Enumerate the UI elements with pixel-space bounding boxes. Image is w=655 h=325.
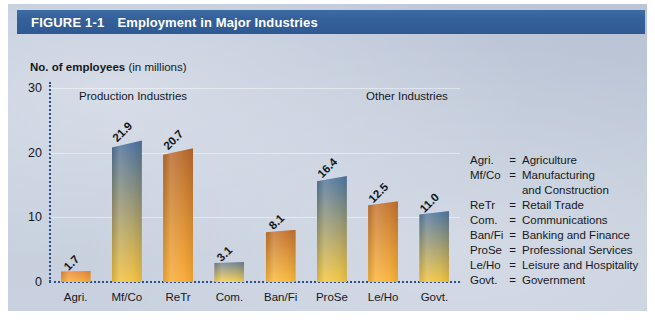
- figure-title-bar: FIGURE 1-1 Employment in Major Industrie…: [17, 10, 645, 34]
- legend-row: Ban/Fi=Banking and Finance: [470, 229, 638, 244]
- legend-spacer: [509, 184, 522, 199]
- bar[interactable]: 11.0Govt.: [419, 211, 449, 282]
- legend-full-name-continued: and Construction: [522, 184, 638, 199]
- bar-value-label: 8.1: [266, 211, 286, 231]
- y-axis-tick-label: 20: [28, 146, 42, 160]
- bar-value-label: 21.9: [110, 120, 134, 144]
- legend-full-name: Retail Trade: [522, 199, 638, 214]
- y-axis-label-strong: No. of employees: [30, 61, 125, 73]
- bar[interactable]: 12.5Le/Ho: [368, 201, 398, 282]
- legend-full-name: Professional Services: [522, 244, 638, 259]
- legend-full-name: Communications: [522, 214, 638, 229]
- bar-highlight: [214, 262, 244, 282]
- bar-value-label: 3.1: [215, 244, 235, 264]
- legend-row: Mf/Co=Manufacturing: [470, 169, 638, 184]
- legend-equals-sign: =: [509, 214, 522, 229]
- legend-row: Govt.=Government: [470, 274, 638, 289]
- x-axis-category-label: Com.: [206, 291, 252, 303]
- bar-value-label: 1.7: [61, 253, 81, 273]
- legend-row: Le/Ho=Leisure and Hospitality: [470, 259, 638, 274]
- legend-full-name: Government: [522, 274, 638, 289]
- bar-highlight: [61, 271, 91, 282]
- legend-row-continuation: and Construction: [470, 184, 638, 199]
- legend-equals-sign: =: [509, 244, 522, 259]
- chart-plot-area: 0102030 1.7Agri.21.9Mf/Co20.7ReTr3.1Com.…: [50, 88, 460, 282]
- legend-full-name: Agriculture: [522, 154, 638, 169]
- y-axis-tick-label: 0: [35, 275, 42, 289]
- bar-value-label: 20.7: [161, 128, 185, 152]
- legend-abbreviation: ReTr: [470, 199, 509, 214]
- legend-equals-sign: =: [509, 154, 522, 169]
- bar[interactable]: 3.1Com.: [214, 262, 244, 282]
- legend-abbreviation: Com.: [470, 214, 509, 229]
- legend-table: Agri.=AgricultureMf/Co=Manufacturingand …: [470, 154, 638, 289]
- bar[interactable]: 16.4ProSe: [317, 176, 347, 282]
- bar-highlight: [368, 201, 398, 282]
- y-axis-line: [49, 82, 51, 282]
- figure-panel: FIGURE 1-1 Employment in Major Industrie…: [8, 4, 647, 311]
- legend-equals-sign: =: [509, 229, 522, 244]
- legend-abbreviation: Govt.: [470, 274, 509, 289]
- y-axis-label-rest: (in millions): [125, 61, 186, 73]
- legend-abbreviation: Le/Ho: [470, 259, 509, 274]
- legend-full-name: Leisure and Hospitality: [522, 259, 638, 274]
- bar-highlight: [163, 148, 193, 282]
- figure-title: Employment in Major Industries: [118, 15, 318, 30]
- legend-full-name: Manufacturing: [522, 169, 638, 184]
- legend-abbreviation: Ban/Fi: [470, 229, 509, 244]
- x-axis-line: [49, 281, 460, 283]
- x-axis-category-label: ReTr: [155, 291, 201, 303]
- bar[interactable]: 8.1Ban/Fi: [266, 230, 296, 282]
- x-axis-category-label: Agri.: [53, 291, 99, 303]
- y-axis-tick-label: 10: [28, 210, 42, 224]
- legend-full-name: Banking and Finance: [522, 229, 638, 244]
- x-axis-category-label: Mf/Co: [104, 291, 150, 303]
- bar-value-label: 11.0: [418, 191, 442, 215]
- x-axis-category-label: Govt.: [411, 291, 457, 303]
- legend-equals-sign: =: [509, 169, 522, 184]
- y-axis-label: No. of employees (in millions): [30, 61, 187, 73]
- legend: Agri.=AgricultureMf/Co=Manufacturingand …: [470, 154, 638, 289]
- legend-row: ReTr=Retail Trade: [470, 199, 638, 214]
- legend-row: Com.=Communications: [470, 214, 638, 229]
- bar-highlight: [112, 140, 142, 282]
- figure-number: FIGURE 1-1: [31, 15, 105, 30]
- legend-row: ProSe=Professional Services: [470, 244, 638, 259]
- legend-abbreviation: ProSe: [470, 244, 509, 259]
- x-axis-category-label: Ban/Fi: [258, 291, 304, 303]
- y-axis-tick-label: 30: [28, 81, 42, 95]
- group-caption-production: Production Industries: [79, 90, 187, 102]
- legend-row: Agri.=Agriculture: [470, 154, 638, 169]
- legend-abbreviation: Agri.: [470, 154, 509, 169]
- group-caption-other: Other Industries: [366, 90, 448, 102]
- legend-equals-sign: =: [509, 274, 522, 289]
- x-axis-category-label: ProSe: [309, 291, 355, 303]
- bar[interactable]: 21.9Mf/Co: [112, 140, 142, 282]
- gridline: [50, 88, 460, 89]
- legend-equals-sign: =: [509, 199, 522, 214]
- bar-highlight: [266, 230, 296, 282]
- bar-highlight: [419, 211, 449, 282]
- bar-value-label: 16.4: [315, 156, 339, 180]
- legend-abbreviation: Mf/Co: [470, 169, 509, 184]
- legend-equals-sign: =: [509, 259, 522, 274]
- legend-spacer: [470, 184, 509, 199]
- x-axis-category-label: Le/Ho: [360, 291, 406, 303]
- bar[interactable]: 20.7ReTr: [163, 148, 193, 282]
- bar[interactable]: 1.7Agri.: [61, 271, 91, 282]
- bar-highlight: [317, 176, 347, 282]
- bar-value-label: 12.5: [366, 181, 390, 205]
